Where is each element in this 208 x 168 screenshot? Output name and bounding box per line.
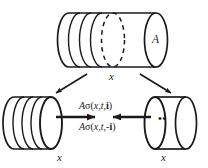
top-cylinder-rib-3 xyxy=(91,13,103,67)
top-cylinder-group xyxy=(58,13,168,67)
right-cylinder-group xyxy=(145,97,197,149)
top-cylinder-rib-1 xyxy=(69,13,81,67)
flux-label-upper: Aσ(x,t,i) xyxy=(79,101,112,111)
top-cylinder-cut-plane xyxy=(102,13,125,67)
area-label-A: A xyxy=(152,34,159,46)
left-cylinder-right-cap xyxy=(40,97,62,149)
right-cylinder-axis-label-x: x xyxy=(161,152,166,163)
diagram-canvas xyxy=(0,0,208,168)
right-cylinder-ellipsis: •• xyxy=(158,112,167,124)
top-cylinder-left-cap xyxy=(58,13,70,67)
top-cylinder-axis-label-x: x xyxy=(109,71,114,82)
flux-label-lower: Aσ(x,t,-i) xyxy=(79,122,116,132)
right-cylinder-right-cap xyxy=(176,97,197,149)
flux-upper-paren-close: ) xyxy=(109,100,112,111)
flux-lower-paren-close: ) xyxy=(112,121,115,132)
left-cylinder-group xyxy=(3,97,62,149)
split-arrow-left xyxy=(56,74,87,93)
top-cylinder-rib-2 xyxy=(80,13,92,67)
left-cylinder-axis-label-x: x xyxy=(57,152,62,163)
right-cylinder-left-cap xyxy=(145,97,156,149)
split-arrow-right xyxy=(140,74,171,93)
stress-vector-cylinder-diagram: A x x x •• Aσ(x,t,i) Aσ(x,t,-i) xyxy=(0,0,208,168)
